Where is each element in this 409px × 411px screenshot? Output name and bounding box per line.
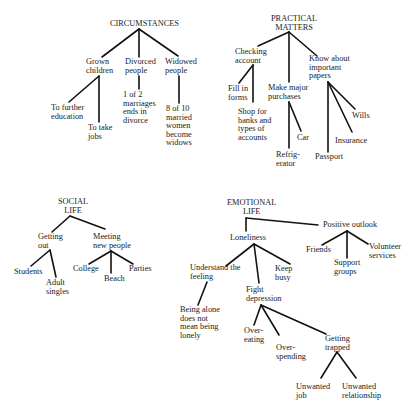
- getting-out-node: Getting out: [38, 233, 63, 250]
- shop-banks-node: Shop for banks and types of accounts: [238, 108, 271, 142]
- beach-node: Beach: [104, 275, 125, 284]
- further-education-node: To further education: [51, 104, 84, 121]
- important-papers-node: Know about important papers: [309, 55, 350, 81]
- college-node: College: [73, 265, 99, 274]
- getting-trapped-node: Getting trapped: [325, 335, 350, 352]
- divorced-people-node: Divorced people: [125, 58, 156, 75]
- passport-node: Passport: [315, 153, 343, 162]
- support-groups-node: Support groups: [334, 259, 360, 276]
- major-purchases-node: Make major purchases: [268, 84, 308, 101]
- grown-children-node: Grown children: [86, 58, 113, 75]
- keep-busy-node: Keep busy: [275, 265, 293, 282]
- take-jobs-node: To take jobs: [88, 124, 113, 141]
- being-alone-node: Being alone does not mean being lonely: [180, 306, 220, 340]
- social-life-title: SOCIAL LIFE: [58, 198, 88, 215]
- unwanted-relationship-node: Unwanted relationship: [342, 383, 381, 400]
- unwanted-job-node: Unwanted job: [296, 383, 330, 400]
- overspending-node: Over- spending: [276, 344, 306, 361]
- loneliness-node: Loneliness: [230, 234, 266, 243]
- understand-feeling-node: Understand the feeling: [190, 264, 240, 281]
- meeting-new-people-node: Meeting new people: [93, 233, 131, 250]
- mind-map-diagram: CIRCUMSTANCES Grown children To further …: [0, 0, 409, 411]
- adult-singles-node: Adult singles: [46, 279, 69, 296]
- parties-node: Parties: [129, 265, 152, 274]
- circumstances-title: CIRCUMSTANCES: [110, 20, 179, 29]
- practical-matters-title: PRACTICAL MATTERS: [271, 15, 317, 32]
- refrigerator-node: Refrig- erator: [276, 151, 300, 168]
- checking-account-node: Checking account: [235, 48, 267, 65]
- volunteer-services-node: Volunteer services: [369, 243, 401, 260]
- widow-statistic-node: 8 of 10 married women become widows: [166, 105, 192, 148]
- car-node: Car: [297, 134, 309, 143]
- fight-depression-node: Fight depression: [246, 286, 282, 303]
- students-node: Students: [14, 268, 43, 277]
- positive-outlook-node: Positive outlook: [323, 221, 377, 230]
- insurance-node: Insurance: [335, 137, 367, 146]
- friends-node: Friends: [306, 246, 331, 255]
- widowed-people-node: Widowed people: [165, 58, 197, 75]
- overeating-node: Over- eating: [244, 327, 264, 344]
- divorce-statistic-node: 1 of 2 marriages ends in divorce: [123, 91, 156, 125]
- fill-in-forms-node: Fill in forms: [228, 85, 248, 102]
- emotional-life-title: EMOTIONAL LIFE: [227, 199, 276, 216]
- wills-node: Wills: [352, 112, 370, 121]
